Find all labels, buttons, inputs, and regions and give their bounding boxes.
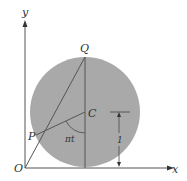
point-P-label: P (27, 130, 36, 143)
point-Q-label: Q (80, 42, 89, 55)
dimension-arrow-down-icon (117, 162, 121, 167)
y-axis-label: y (21, 6, 29, 19)
circle-diagram: 1 y x O Q C P πt (0, 0, 187, 181)
radius-label: 1 (117, 135, 123, 145)
x-axis-label: x (172, 163, 179, 176)
point-C-label: C (88, 107, 97, 120)
angle-label: πt (64, 134, 75, 144)
origin-label: O (14, 162, 23, 175)
y-axis-arrow-icon (23, 20, 28, 27)
